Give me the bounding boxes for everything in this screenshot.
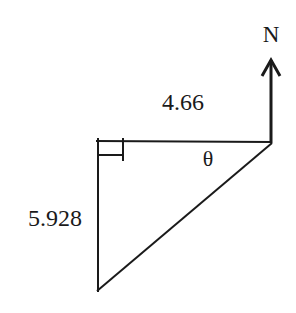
triangle-hypotenuse <box>97 143 272 291</box>
left-side-length-label: 5.928 <box>28 205 82 231</box>
bearing-triangle-diagram: N 4.66 θ 5.928 <box>0 0 296 313</box>
angle-theta-label: θ <box>203 146 214 171</box>
north-label: N <box>263 22 280 47</box>
top-side-length-label: 4.66 <box>162 89 204 115</box>
